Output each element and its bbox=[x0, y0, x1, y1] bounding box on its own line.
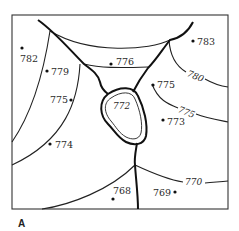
spot-dot bbox=[20, 46, 23, 49]
spot-782: 782 bbox=[20, 46, 38, 64]
spot-783: 783 bbox=[191, 36, 215, 47]
contour-780-label: 780 bbox=[186, 68, 206, 84]
svg-text:775: 775 bbox=[50, 94, 68, 105]
divide-upper-left bbox=[38, 20, 108, 94]
spot-775-right: 775 bbox=[151, 79, 175, 90]
spot-dot bbox=[48, 142, 51, 145]
spot-dot bbox=[173, 190, 176, 193]
spot-769: 769 bbox=[153, 187, 177, 198]
contour-left-outer bbox=[12, 31, 50, 142]
spot-776: 776 bbox=[109, 56, 134, 67]
svg-text:773: 773 bbox=[167, 116, 185, 127]
spot-773: 773 bbox=[161, 116, 185, 127]
lake-inner-shore bbox=[105, 93, 141, 139]
svg-text:782: 782 bbox=[20, 53, 38, 64]
svg-text:768: 768 bbox=[113, 185, 131, 196]
contour-top-arc bbox=[50, 31, 170, 48]
spot-dot bbox=[151, 83, 154, 86]
panel-label: A bbox=[18, 218, 25, 229]
lake-elevation-label: 772 bbox=[113, 101, 130, 111]
spot-768: 768 bbox=[111, 185, 131, 201]
contour-770-label: 770 bbox=[185, 177, 202, 187]
spot-dot bbox=[45, 69, 48, 72]
spot-779: 779 bbox=[45, 66, 69, 77]
spot-dot bbox=[69, 98, 72, 101]
spot-dot bbox=[111, 197, 114, 200]
divide-lower bbox=[135, 143, 138, 209]
spot-774: 774 bbox=[48, 139, 73, 150]
svg-text:776: 776 bbox=[116, 56, 134, 67]
spot-775-left: 775 bbox=[50, 94, 73, 105]
contour-map: 772 780 775 770 782 779 776 783 775 775 … bbox=[0, 0, 239, 231]
svg-text:783: 783 bbox=[197, 36, 215, 47]
spot-dot bbox=[191, 39, 194, 42]
svg-text:779: 779 bbox=[51, 66, 69, 77]
contour-770 bbox=[135, 165, 228, 183]
svg-text:774: 774 bbox=[55, 139, 73, 150]
svg-text:769: 769 bbox=[153, 187, 171, 198]
spot-dot bbox=[109, 62, 112, 65]
svg-text:775: 775 bbox=[157, 79, 175, 90]
spot-dot bbox=[161, 118, 164, 121]
